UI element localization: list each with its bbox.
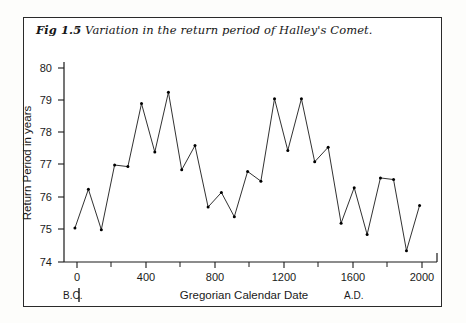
data-point [100, 228, 103, 231]
x-tick-label-0: 0 [74, 271, 80, 283]
x-tick-label-2000: 2000 [410, 271, 434, 283]
data-point [233, 215, 236, 218]
y-tick-label-74: 74 [40, 256, 52, 268]
x-tick-label-1600: 1600 [341, 271, 365, 283]
data-point [353, 186, 356, 189]
x-tick-label-800: 800 [206, 271, 224, 283]
line-chart-svg: 80 79 78 77 76 75 74 [0, 0, 466, 323]
y-tick-label-80: 80 [40, 62, 52, 74]
y-axis-ticks [58, 68, 64, 262]
data-point [340, 222, 343, 225]
x-tick-label-400: 400 [137, 271, 155, 283]
data-point [220, 191, 223, 194]
data-point [113, 164, 116, 167]
data-point [286, 149, 289, 152]
y-axis-tick-labels: 80 79 78 77 76 75 74 [40, 62, 52, 268]
data-point [313, 160, 316, 163]
data-point [180, 168, 183, 171]
data-point [167, 91, 170, 94]
data-point [300, 97, 303, 100]
data-point [126, 165, 129, 168]
figure-page: Fig 1.5 Variation in the return period o… [0, 0, 466, 323]
data-point [327, 146, 330, 149]
x-axis-tick-labels: 0 400 800 1200 1600 2000 [74, 271, 434, 283]
x-axis-title: Gregorian Calendar Date [180, 289, 309, 301]
data-point [379, 176, 382, 179]
x-axis-ticks [77, 262, 422, 268]
data-point [87, 188, 90, 191]
y-tick-label-75: 75 [40, 223, 52, 235]
y-tick-label-76: 76 [40, 191, 52, 203]
data-point [418, 204, 421, 207]
data-point [273, 97, 276, 100]
y-tick-label-77: 77 [40, 158, 52, 170]
chart-area: 80 79 78 77 76 75 74 [0, 0, 466, 323]
data-point [140, 102, 143, 105]
data-point [193, 144, 196, 147]
y-tick-label-78: 78 [40, 126, 52, 138]
data-point [73, 227, 76, 230]
era-label-ad: A.D. [344, 290, 363, 301]
y-axis-title: Return Period in years [21, 106, 33, 221]
data-point [246, 170, 249, 173]
data-point [366, 233, 369, 236]
data-point [405, 249, 408, 252]
chart-axes [64, 62, 437, 262]
y-tick-label-79: 79 [40, 94, 52, 106]
data-point [207, 206, 210, 209]
data-point [392, 178, 395, 181]
data-point [259, 180, 262, 183]
data-point [153, 151, 156, 154]
x-tick-label-1200: 1200 [272, 271, 296, 283]
